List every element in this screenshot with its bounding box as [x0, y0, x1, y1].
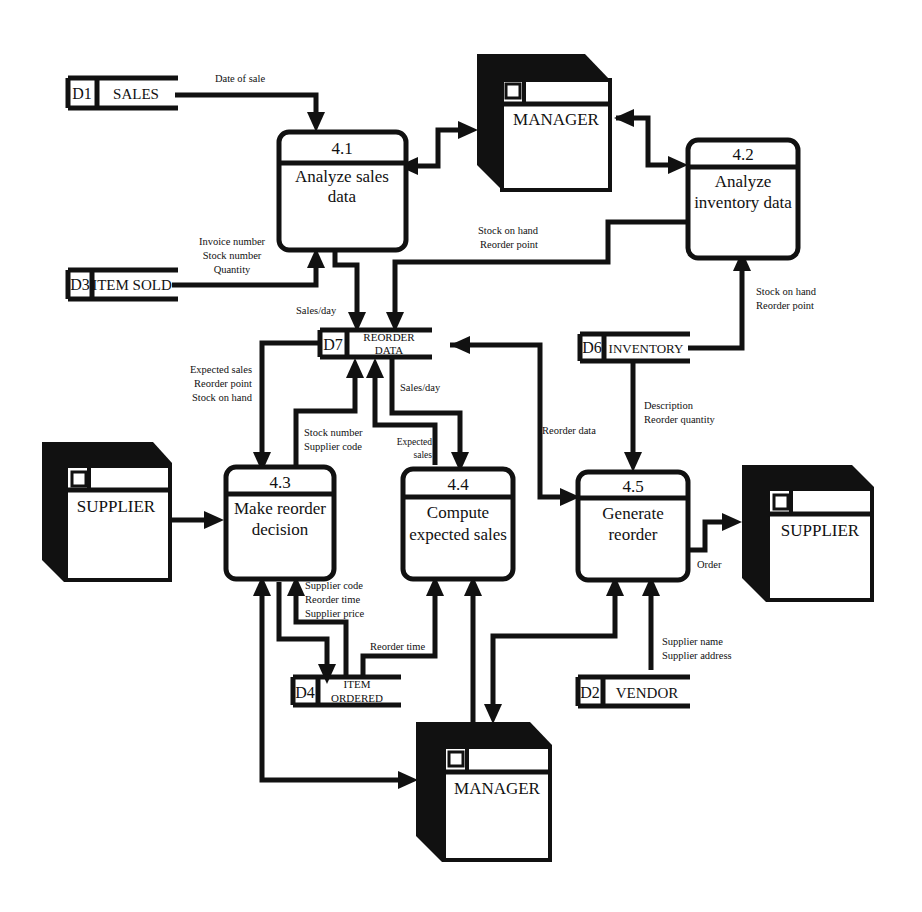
- process-4-1[interactable]: 4.1 Analyze sales data: [279, 132, 406, 250]
- flow-label: Supplier address: [662, 650, 732, 661]
- arrow-left-icon: [450, 336, 470, 354]
- store-id: D7: [323, 336, 343, 353]
- store-d3-item-sold[interactable]: D3 ITEM SOLD: [68, 270, 178, 299]
- process-id: 4.1: [331, 139, 352, 158]
- process-name-line1: Compute: [427, 503, 489, 522]
- arrow-down-icon: [318, 664, 336, 684]
- arrow-down-icon: [484, 704, 502, 724]
- process-name-line2: reorder: [608, 525, 657, 544]
- arrow-right-icon: [398, 771, 418, 789]
- entity-manager-top[interactable]: MANAGER: [477, 54, 610, 190]
- process-name-line1: Generate: [602, 504, 663, 523]
- process-name-line2: decision: [252, 520, 309, 539]
- store-name-line1: REORDER: [363, 331, 415, 343]
- store-name: ITEM SOLD: [92, 277, 172, 293]
- process-id: 4.4: [447, 475, 469, 494]
- process-id: 4.2: [732, 145, 753, 164]
- store-id: D2: [580, 684, 600, 701]
- flow-4-2-to-d7: [395, 222, 688, 318]
- window-icon: [774, 495, 788, 509]
- arrow-right-icon: [668, 156, 688, 174]
- arrow-up-icon: [346, 358, 364, 378]
- flow-label: Supplier name: [662, 636, 723, 647]
- entity-supplier-right[interactable]: SUPPLIER: [742, 465, 874, 602]
- window-icon: [506, 84, 520, 98]
- flow-label: Expected: [397, 437, 433, 447]
- flow-d6-to-4-2: [688, 265, 742, 348]
- flow-label: Stock number: [203, 250, 262, 261]
- flow-sales-day-4-1-to-d7: [335, 252, 357, 318]
- process-name-line2: expected sales: [409, 525, 507, 544]
- flow-label: Reorder data: [542, 425, 596, 436]
- flow-manager-4-2: [616, 118, 675, 165]
- store-id: D6: [582, 339, 602, 356]
- process-4-5[interactable]: 4.5 Generate reorder: [578, 472, 688, 580]
- flow-label: Reorder quantity: [644, 414, 716, 425]
- process-name-line1: Analyze sales: [295, 167, 389, 186]
- store-name-line1: ITEM: [344, 678, 371, 690]
- entity-name: MANAGER: [454, 779, 541, 798]
- store-d7-reorder-data[interactable]: D7 REORDER DATA: [320, 330, 432, 357]
- arrow-right-icon: [722, 513, 742, 531]
- store-d6-inventory[interactable]: D6 INVENTORY: [580, 334, 690, 361]
- flow-date-of-sale: [175, 95, 316, 118]
- arrow-up-icon: [366, 358, 384, 378]
- flow-label: Quantity: [214, 264, 251, 275]
- data-flow-diagram: 4.1 Analyze sales data 4.2 Analyze inven…: [0, 0, 922, 912]
- process-id: 4.5: [622, 477, 643, 496]
- flow-label: Sales/day: [296, 305, 337, 316]
- process-4-3[interactable]: 4.3 Make reorder decision: [226, 467, 334, 579]
- store-d1-sales[interactable]: D1 SALES: [68, 78, 178, 108]
- flow-label: Reorder point: [194, 378, 252, 389]
- flow-label: Reorder time: [305, 594, 360, 605]
- flow-label: Supplier code: [304, 441, 362, 452]
- store-name: SALES: [113, 86, 159, 102]
- flow-label: Description: [644, 400, 694, 411]
- store-d4-item-ordered[interactable]: D4 ITEM ORDERED: [293, 677, 401, 705]
- flow-label: Reorder time: [370, 641, 425, 652]
- window-icon: [449, 752, 463, 766]
- entity-manager-bottom[interactable]: MANAGER: [416, 722, 552, 862]
- process-4-2[interactable]: 4.2 Analyze inventory data: [688, 140, 798, 258]
- entity-name: SUPPLIER: [781, 521, 860, 540]
- flow-d4-to-4-4: [363, 590, 435, 675]
- flow-label: Stock number: [304, 427, 363, 438]
- process-name-line2: inventory data: [694, 193, 792, 212]
- process-4-4[interactable]: 4.4 Compute expected sales: [403, 469, 513, 579]
- store-name: INVENTORY: [609, 341, 684, 356]
- store-id: D4: [295, 684, 315, 701]
- store-name-line2: DATA: [375, 344, 404, 356]
- flow-label: Supplier code: [305, 580, 363, 591]
- store-id: D1: [72, 85, 92, 102]
- arrow-right-icon: [204, 511, 224, 529]
- arrow-right-icon: [458, 121, 478, 139]
- process-name-line2: data: [328, 187, 357, 206]
- process-name-line1: Make reorder: [234, 499, 326, 518]
- arrow-left-icon: [614, 109, 634, 127]
- flow-label: Reorder point: [480, 239, 538, 250]
- flow-label: Sales/day: [400, 382, 441, 393]
- flow-label: Date of sale: [215, 73, 265, 84]
- store-id: D3: [70, 276, 90, 293]
- window-icon: [72, 472, 86, 486]
- store-name-line2: ORDERED: [331, 692, 383, 704]
- entity-name: SUPPLIER: [77, 497, 156, 516]
- flow-label: Expected sales: [190, 364, 252, 375]
- flow-label: Order: [697, 559, 722, 570]
- entity-name: MANAGER: [513, 110, 600, 129]
- flow-label: Stock on hand: [478, 225, 539, 236]
- flow-label: Reorder point: [756, 300, 814, 311]
- store-name: VENDOR: [616, 685, 679, 701]
- flow-label: sales: [414, 450, 433, 460]
- arrow-down-icon: [307, 112, 325, 132]
- entity-supplier-left[interactable]: SUPPLIER: [42, 442, 172, 582]
- flow-label: Invoice number: [199, 236, 266, 247]
- flow-label: Stock on hand: [756, 286, 817, 297]
- process-name-line1: Analyze: [715, 172, 772, 191]
- flow-label: Supplier price: [305, 608, 365, 619]
- process-id: 4.3: [269, 473, 290, 492]
- store-d2-vendor[interactable]: D2 VENDOR: [578, 677, 690, 706]
- flow-label: Stock on hand: [192, 392, 253, 403]
- arrow-down-icon: [624, 452, 642, 472]
